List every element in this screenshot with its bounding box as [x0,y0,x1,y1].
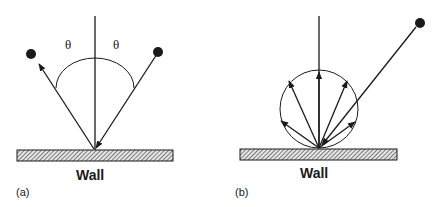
wall-label: Wall [76,167,104,183]
particle-reflected [26,49,36,59]
panel-b: Wall (b) [235,16,425,198]
incident-ray [96,54,157,148]
panel-a: θ θ Wall (a) [16,16,173,198]
panel-label: (b) [235,186,248,198]
panel-label: (a) [16,186,29,198]
reflected-ray [39,64,94,149]
wall [240,149,397,160]
wall-label: Wall [300,165,328,181]
particle-incident [415,18,425,28]
particle-incident [153,47,163,57]
wall [17,150,173,161]
theta-label-right: θ [113,37,119,52]
theta-label-left: θ [65,37,71,52]
reflection-diagram: θ θ Wall (a) Wall (b) [0,0,436,207]
incident-ray [322,27,416,145]
